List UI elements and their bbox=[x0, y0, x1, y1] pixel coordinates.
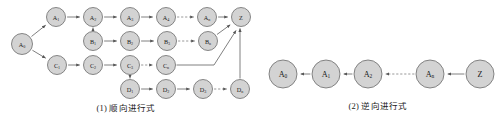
graph-node-a0[interactable]: A0 bbox=[269, 60, 297, 88]
graph-node-d3[interactable]: D3 bbox=[194, 80, 213, 99]
graph-node-d2[interactable]: D2 bbox=[157, 80, 176, 99]
node-layer: A0A1A2A3A4AnZB1B2B3BnC1C2C3CnD1D2D3Dn bbox=[12, 8, 251, 99]
graph-node-c1[interactable]: C1 bbox=[48, 56, 67, 75]
graph-node-an[interactable]: An bbox=[198, 8, 217, 27]
diagram-panel-backward: A0A1A2AnZ (2) 逆向进行式 bbox=[252, 0, 504, 124]
edge-bn-to-z bbox=[217, 25, 230, 35]
graph-node-a1[interactable]: A1 bbox=[47, 8, 66, 27]
graph-node-c3[interactable]: C3 bbox=[121, 56, 140, 75]
graph-node-cn[interactable]: Cn bbox=[157, 56, 176, 75]
graph-node-a2[interactable]: A2 bbox=[354, 60, 382, 88]
node-label: Z bbox=[239, 14, 243, 21]
graph-node-a1[interactable]: A1 bbox=[312, 60, 340, 88]
graph-node-bn[interactable]: Bn bbox=[199, 32, 218, 51]
graph-node-b1[interactable]: B1 bbox=[84, 32, 103, 51]
graph-node-a4[interactable]: A4 bbox=[157, 8, 176, 27]
graph-node-dn[interactable]: Dn bbox=[231, 80, 250, 99]
backward-flow-diagram: A0A1A2AnZ bbox=[252, 0, 504, 98]
graph-node-a3[interactable]: A3 bbox=[121, 8, 140, 27]
graph-node-b3[interactable]: B3 bbox=[158, 32, 177, 51]
node-label: Z bbox=[477, 70, 482, 79]
edge-a0-to-c1 bbox=[32, 50, 45, 58]
graph-node-an[interactable]: An bbox=[416, 60, 444, 88]
figure-canvas: A0A1A2A3A4AnZB1B2B3BnC1C2C3CnD1D2D3Dn (1… bbox=[0, 0, 504, 124]
diagram-panel-forward: A0A1A2A3A4AnZB1B2B3BnC1C2C3CnD1D2D3Dn (1… bbox=[0, 0, 252, 124]
graph-node-d1[interactable]: D1 bbox=[121, 80, 140, 99]
graph-node-a0[interactable]: A0 bbox=[12, 34, 33, 55]
graph-node-z[interactable]: Z bbox=[232, 8, 251, 27]
graph-node-b2[interactable]: B2 bbox=[121, 32, 140, 51]
graph-node-a2[interactable]: A2 bbox=[84, 8, 103, 27]
graph-node-c2[interactable]: C2 bbox=[84, 56, 103, 75]
caption-forward: (1) 顺向进行式 bbox=[0, 101, 252, 113]
caption-backward: (2) 逆向进行式 bbox=[252, 99, 504, 111]
graph-node-z[interactable]: Z bbox=[466, 60, 494, 88]
edge-a0-to-a1 bbox=[31, 25, 45, 36]
forward-flow-diagram: A0A1A2A3A4AnZB1B2B3BnC1C2C3CnD1D2D3Dn bbox=[0, 0, 252, 100]
edge-layer bbox=[31, 17, 240, 89]
